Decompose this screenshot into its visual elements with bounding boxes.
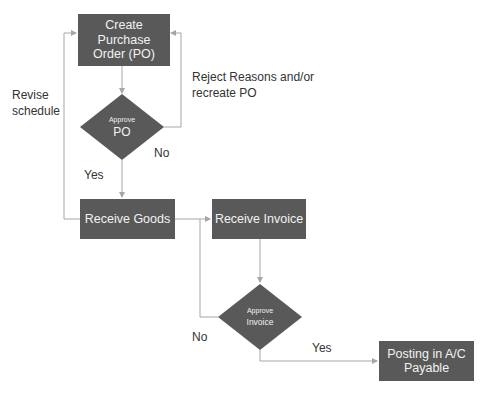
posting-node: Posting in A/C Payable — [379, 341, 474, 381]
receive-invoice-label: Receive Invoice — [215, 212, 303, 226]
approve-invoice-yes-label: Yes — [312, 341, 332, 357]
receive-goods-node: Receive Goods — [80, 199, 175, 239]
revise-schedule-label: Revise schedule — [12, 88, 64, 119]
approve-invoice-label-big: Invoice — [247, 317, 274, 327]
reject-reasons-label: Reject Reasons and/or recreate PO — [192, 70, 322, 101]
approve-po-label: Approve PO — [82, 108, 162, 146]
approve-po-no-label: No — [154, 146, 169, 162]
create-po-label: Create Purchase Order (PO) — [80, 18, 168, 61]
approve-po-yes-label: Yes — [84, 168, 104, 184]
approve-invoice-label-small: Approve — [247, 307, 273, 314]
create-po-node: Create Purchase Order (PO) — [78, 14, 170, 66]
receive-goods-label: Receive Goods — [85, 212, 170, 226]
approve-po-label-small: Approve — [109, 116, 135, 123]
receive-invoice-node: Receive Invoice — [212, 199, 306, 239]
posting-label: Posting in A/C Payable — [385, 347, 468, 376]
approve-invoice-no-label: No — [192, 330, 207, 346]
approve-po-label-big: PO — [113, 125, 130, 139]
approve-invoice-label: Approve Invoice — [220, 298, 300, 336]
